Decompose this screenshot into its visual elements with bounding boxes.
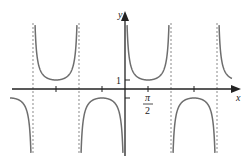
- y-tick-label-1: 1: [116, 75, 121, 86]
- csc-branch: [127, 25, 169, 80]
- csc-branch: [10, 98, 31, 153]
- x-tick-label-denominator: 2: [145, 105, 150, 116]
- x-tick-label-numerator: π: [145, 92, 151, 103]
- x-axis-label: x: [235, 92, 241, 103]
- csc-branch: [35, 25, 77, 80]
- y-axis-label: y: [117, 9, 123, 20]
- csc-graph: y x 1 π 2: [0, 0, 247, 165]
- csc-branch: [219, 25, 232, 78]
- csc-branch: [173, 98, 215, 153]
- csc-branch: [81, 98, 123, 153]
